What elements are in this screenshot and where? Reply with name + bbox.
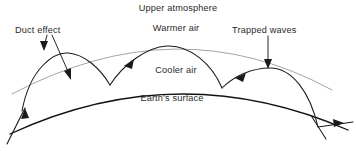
label-cooler-air: Cooler air — [155, 65, 196, 75]
label-warmer-air: Warmer air — [153, 23, 200, 33]
label-duct-effect: Duct effect — [15, 25, 61, 35]
wave-arc-1 — [22, 53, 110, 111]
label-upper-atmosphere: Upper atmosphere — [139, 3, 218, 13]
label-earths-surface: Earth's surface — [140, 93, 203, 103]
wave-arc-2-arrowhead-icon — [124, 59, 134, 69]
duct-effect-leader-1-arrowhead-icon — [40, 41, 48, 51]
duct-propagation-diagram: Upper atmosphere Warmer air Duct effect … — [0, 0, 356, 151]
label-trapped-waves: Trapped waves — [232, 25, 297, 35]
diagram-canvas: Upper atmosphere Warmer air Duct effect … — [0, 0, 356, 151]
wave-arc-3-arrowhead-icon — [235, 73, 246, 82]
entry-ray — [7, 108, 25, 144]
